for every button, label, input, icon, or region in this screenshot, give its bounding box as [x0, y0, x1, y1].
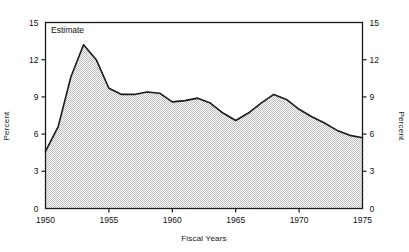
y-tick-label-left: 15 — [29, 18, 38, 28]
x-tick-label: 1955 — [99, 215, 118, 225]
x-tick-label: 1960 — [163, 215, 182, 225]
x-tick-label: 1950 — [36, 215, 55, 225]
x-axis-label: Fiscal Years — [181, 234, 227, 243]
x-tick-label: 1965 — [226, 215, 245, 225]
chart-plot-area — [0, 0, 409, 252]
estimate-annotation: Estimate — [51, 25, 84, 35]
y-tick-label-right: 3 — [370, 166, 375, 176]
y-tick-label-left: 3 — [34, 166, 39, 176]
chart-figure: Estimate Percent Percent Fiscal Years 03… — [0, 0, 409, 252]
x-tick-label: 1975 — [353, 215, 372, 225]
y-tick-label-left: 6 — [34, 129, 39, 139]
x-tick-label: 1970 — [290, 215, 309, 225]
y-axis-label-right: Percent — [397, 112, 406, 141]
chart-area-fill — [46, 45, 363, 209]
y-tick-label-left: 0 — [34, 204, 39, 214]
y-tick-label-right: 15 — [370, 18, 379, 28]
y-tick-label-left: 9 — [34, 92, 39, 102]
y-tick-label-right: 9 — [370, 92, 375, 102]
y-tick-label-right: 0 — [370, 204, 375, 214]
y-tick-label-left: 12 — [29, 55, 38, 65]
y-axis-label-left: Percent — [2, 112, 11, 141]
y-tick-label-right: 12 — [370, 55, 379, 65]
y-tick-label-right: 6 — [370, 129, 375, 139]
